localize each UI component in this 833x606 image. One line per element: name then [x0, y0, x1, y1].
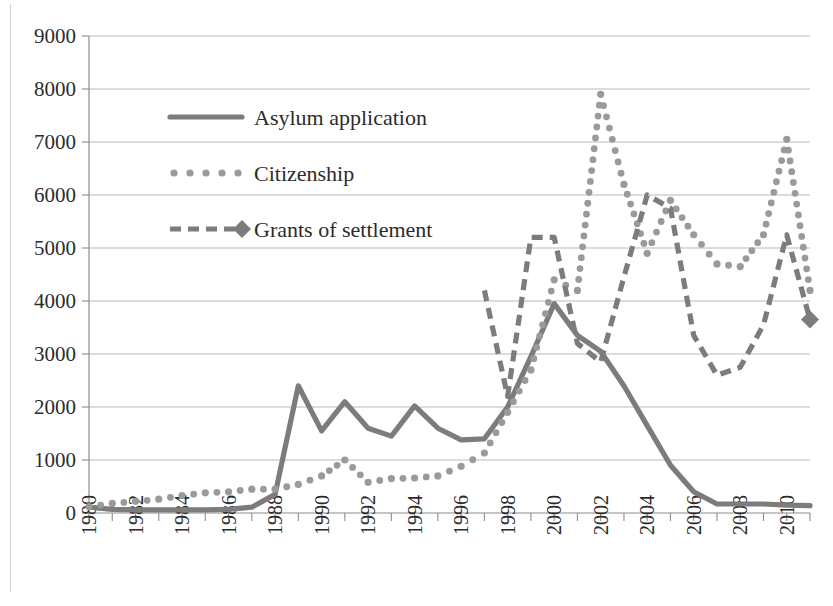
data-point [595, 113, 602, 120]
data-point [578, 254, 585, 261]
data-point [631, 211, 638, 218]
data-point [504, 409, 511, 416]
y-tick-label: 0 [66, 501, 77, 525]
data-point [542, 310, 549, 317]
data-point [591, 145, 598, 152]
data-point [803, 265, 810, 272]
x-tick-label: 2002 [590, 495, 612, 535]
data-point [603, 113, 610, 120]
legend-item: Asylum application [170, 105, 427, 130]
legend-item: Grants of settlement [170, 217, 432, 242]
x-tick-label: 1998 [497, 495, 519, 535]
data-point [551, 276, 558, 283]
data-point [592, 134, 599, 141]
data-point [411, 474, 418, 481]
data-point [283, 483, 290, 490]
data-point [178, 492, 185, 499]
data-point [202, 489, 209, 496]
data-point [690, 231, 697, 238]
data-point [624, 191, 631, 198]
data-point [318, 472, 325, 479]
data-point [481, 450, 488, 457]
data-point [662, 208, 669, 215]
x-tick-label: 1994 [404, 495, 426, 535]
data-point [498, 419, 505, 426]
data-point [109, 500, 116, 507]
data-point [400, 475, 407, 482]
data-point [667, 197, 674, 204]
data-point [423, 474, 430, 481]
y-tick-label: 5000 [34, 236, 76, 260]
y-tick-label: 8000 [34, 77, 76, 101]
data-point [785, 147, 792, 154]
data-point [797, 222, 804, 229]
data-point [190, 491, 197, 498]
data-point [487, 440, 494, 447]
data-point [597, 91, 604, 98]
data-point [536, 333, 543, 340]
data-point [527, 366, 534, 373]
data-point [580, 233, 587, 240]
data-point [802, 255, 809, 262]
x-tick-label: 2004 [636, 495, 658, 535]
data-point [577, 265, 584, 272]
series-citizenship [85, 91, 813, 511]
data-point [743, 255, 750, 262]
data-point [295, 481, 302, 488]
data-point [737, 263, 744, 270]
data-point [600, 102, 607, 109]
data-point [326, 467, 333, 474]
data-point [579, 243, 586, 250]
data-point [713, 260, 720, 267]
data-point [612, 147, 619, 154]
data-point [85, 503, 92, 510]
data-point [237, 487, 244, 494]
data-point [765, 210, 772, 217]
data-point [778, 157, 785, 164]
legend-swatch-dot [218, 169, 225, 176]
data-point [307, 477, 314, 484]
legend-swatch-dot [186, 169, 193, 176]
legend-label: Asylum application [254, 105, 427, 130]
data-point [388, 475, 395, 482]
data-point [783, 136, 790, 143]
legend-swatch-dot [202, 169, 209, 176]
x-tick-label: 2010 [776, 495, 798, 535]
x-tick-label: 1984 [171, 495, 193, 535]
legend-label: Citizenship [254, 161, 354, 186]
data-point [364, 479, 371, 486]
data-point [539, 321, 546, 328]
legend-swatch-dot [170, 169, 177, 176]
data-point [805, 276, 812, 283]
data-point [575, 276, 582, 283]
line-chart: 0100020003000400050006000700080009000198… [0, 0, 833, 606]
data-point [586, 189, 593, 196]
data-point [658, 218, 665, 225]
data-point [792, 190, 799, 197]
data-point [593, 124, 600, 131]
data-point [493, 429, 500, 436]
data-point [773, 178, 780, 185]
data-point [588, 167, 595, 174]
data-point [446, 468, 453, 475]
data-point [615, 158, 622, 165]
data-point [583, 211, 590, 218]
data-point [787, 158, 794, 165]
x-tick-label: 1986 [218, 495, 240, 535]
x-tick-label: 1996 [450, 495, 472, 535]
legend-item: Citizenship [170, 161, 354, 186]
data-point [144, 497, 151, 504]
legend-diamond-marker [233, 220, 251, 238]
x-tick-label: 2000 [543, 495, 565, 535]
data-point [582, 222, 589, 229]
data-point [587, 178, 594, 185]
data-point [584, 200, 591, 207]
y-tick-label: 9000 [34, 24, 76, 48]
legend-swatch-dot [234, 169, 241, 176]
data-point [376, 477, 383, 484]
data-point [640, 240, 647, 247]
data-point [434, 472, 441, 479]
data-point [644, 250, 651, 257]
data-point [795, 211, 802, 218]
data-point [698, 241, 705, 248]
